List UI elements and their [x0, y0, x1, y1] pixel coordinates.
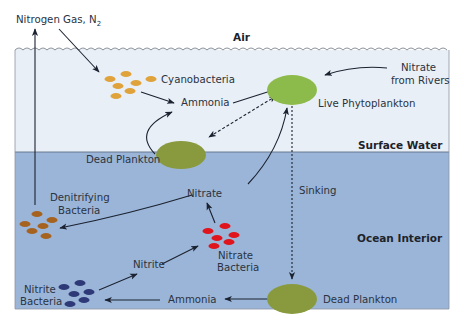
- sinking-label: Sinking: [299, 185, 336, 196]
- surface-water-label: Surface Water: [358, 139, 443, 151]
- ocean-interior-label: Ocean Interior: [357, 232, 443, 244]
- nitrate-rivers-label-line2: from Rivers: [391, 75, 450, 86]
- nitrite-bacteria-label-line1: Nitrite: [24, 284, 56, 295]
- nitrogen-gas-label: Nitrogen Gas, N2: [16, 14, 101, 28]
- nitrate-bacteria-label-line1: Nitrate: [218, 250, 253, 261]
- ammonia-interior-label: Ammonia: [168, 294, 217, 305]
- live-phytoplankton-label: Live Phytoplankton: [318, 98, 415, 109]
- nitrite-bacteria-label-line2: Bacteria: [20, 296, 62, 307]
- denitrifying-label-line1: Denitrifying: [50, 192, 110, 203]
- denitrifying-label-line2: Bacteria: [58, 205, 100, 216]
- dead-plankton-interior-shape: [267, 284, 317, 314]
- nitrogen-cycle-diagram: Air Surface Water Ocean Interior Nitroge…: [0, 0, 464, 334]
- cyanobacteria-label: Cyanobacteria: [161, 74, 235, 85]
- ammonia-surface-label: Ammonia: [181, 97, 230, 108]
- live-phytoplankton-shape: [267, 75, 317, 105]
- dead-plankton-interior-label: Dead Plankton: [323, 294, 397, 305]
- nitrate-interior-label: Nitrate: [187, 188, 222, 199]
- dead-plankton-surface-shape: [156, 141, 206, 169]
- dead-plankton-surface-label: Dead Plankton: [86, 154, 160, 165]
- nitrate-bacteria-label-line2: Bacteria: [217, 262, 259, 273]
- nitrate-rivers-label-line1: Nitrate: [401, 62, 436, 73]
- water-surface-wave: [15, 48, 447, 50]
- nitrite-label: Nitrite: [133, 259, 165, 270]
- air-label: Air: [233, 31, 251, 43]
